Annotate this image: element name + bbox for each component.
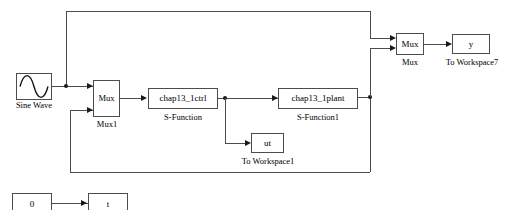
zero-constant-block[interactable]: 0 bbox=[12, 193, 52, 210]
wire-ctrl-to-plant bbox=[218, 98, 278, 99]
wire-branch-to-ut bbox=[225, 143, 247, 144]
wire-plant-to-mux2-riser bbox=[370, 48, 371, 97]
ctrl-sfunction-caption: S-Function bbox=[148, 113, 218, 122]
sine-wave-icon bbox=[17, 74, 51, 99]
wire-mux2-input2 bbox=[370, 48, 390, 49]
sine-wave-caption: Sine Wave bbox=[4, 101, 64, 110]
junction-dot-sine bbox=[64, 84, 68, 88]
ut-to-workspace-caption: To Workspace1 bbox=[228, 157, 308, 166]
wire-feedback-bottom-drop bbox=[370, 97, 371, 172]
wire-feedback-top-riser bbox=[66, 11, 67, 86]
y-to-workspace-caption: To Workspace7 bbox=[440, 58, 504, 67]
ut-to-workspace-block[interactable]: ut bbox=[251, 133, 284, 153]
wire-feedback-bottom-run bbox=[70, 172, 370, 173]
ctrl-sfunction-block[interactable]: chap13_1ctrl bbox=[148, 88, 218, 109]
wire-feedback-bottom-riser bbox=[70, 110, 71, 172]
simulink-model-canvas[interactable]: Sine Wave Mux Mux1 chap13_1ctrl S-Functi… bbox=[0, 0, 505, 210]
mux2-caption: Mux bbox=[392, 58, 428, 67]
mux1-caption: Mux1 bbox=[86, 120, 128, 129]
wire-feedback-top-drop bbox=[370, 11, 371, 38]
mux1-block[interactable]: Mux bbox=[93, 80, 120, 117]
wire-mux2-input1 bbox=[370, 38, 390, 39]
plant-sfunction-block[interactable]: chap13_1plant bbox=[278, 88, 358, 109]
sine-wave-block[interactable] bbox=[16, 73, 52, 100]
arrowhead-t-input bbox=[81, 200, 87, 206]
y-to-workspace-block[interactable]: y bbox=[452, 34, 490, 54]
plant-sfunction-caption: S-Function1 bbox=[278, 113, 358, 122]
clipped-top-text bbox=[62, 0, 362, 5]
wire-ctrl-branch-to-ut bbox=[225, 98, 226, 143]
mux2-block[interactable]: Mux bbox=[396, 33, 424, 55]
t-to-workspace-block[interactable]: t bbox=[88, 193, 128, 210]
wire-feedback-top-run bbox=[66, 11, 370, 12]
arrowhead-ctrl-input bbox=[141, 95, 147, 101]
